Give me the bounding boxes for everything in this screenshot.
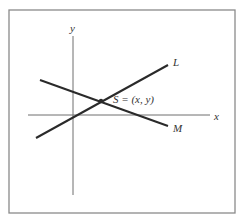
intersection-point xyxy=(99,99,103,103)
line-L-label: L xyxy=(172,56,179,68)
y-axis-label: y xyxy=(69,22,75,34)
diagram-container: x y L M S = (x, y) xyxy=(0,0,242,224)
intersection-label: S = (x, y) xyxy=(113,93,154,106)
x-axis-label: x xyxy=(213,110,219,122)
intersecting-lines-diagram: x y L M S = (x, y) xyxy=(0,0,242,224)
diagram-frame xyxy=(9,10,235,213)
line-M-label: M xyxy=(172,122,183,134)
